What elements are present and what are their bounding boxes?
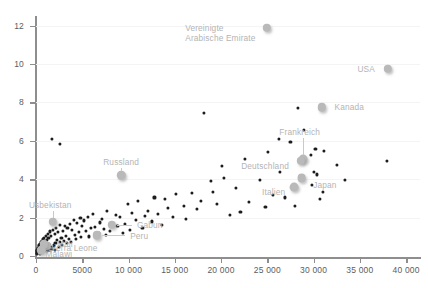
annotation-leader-line: [117, 225, 132, 226]
gridline-horizontal: [36, 141, 420, 142]
x-axis-tick: [314, 258, 315, 263]
y-axis-tick: [30, 64, 36, 65]
y-axis-tick-label: 10: [0, 59, 24, 69]
x-axis-tick-label: 40 000: [393, 265, 420, 275]
annotation-line: Arabische Emirate: [185, 33, 255, 43]
annotation-line: Peru: [130, 231, 148, 241]
y-axis-tick-label: 4: [0, 174, 24, 184]
country-annotation: Italien: [262, 187, 285, 197]
annotation-line: Russland: [103, 156, 139, 166]
annotation-line: USA: [357, 64, 375, 74]
x-axis-tick-label: 0: [34, 265, 39, 275]
country-annotation: Peru: [130, 231, 148, 241]
country-annotation: Russland: [103, 156, 139, 166]
x-axis-tick-label: 5000: [72, 265, 92, 275]
annotation-leader-line: [303, 138, 304, 155]
y-axis-tick: [30, 26, 36, 27]
y-axis-tick-label: 2: [0, 213, 24, 223]
y-axis-tick: [30, 102, 36, 103]
y-axis-tick-label: 12: [0, 21, 24, 31]
country-annotation: Gabun: [137, 220, 163, 230]
x-axis-tick-label: 15 000: [161, 265, 188, 275]
y-axis-tick-label: 6: [0, 136, 24, 146]
x-axis-tick: [221, 258, 222, 263]
x-axis-tick-label: 30 000: [300, 265, 327, 275]
y-axis-tick: [30, 218, 36, 219]
annotation-line: Malawi: [46, 249, 73, 259]
x-axis-tick-label: 20 000: [207, 265, 234, 275]
x-axis-tick: [82, 258, 83, 263]
highlighted-data-point[interactable]: [297, 174, 306, 183]
country-annotation: Kanada: [335, 102, 365, 112]
country-annotation: Deutschland: [241, 161, 289, 171]
annotation-line: Gabun: [137, 220, 163, 230]
highlighted-data-point[interactable]: [290, 182, 299, 191]
annotation-line: Japan: [313, 180, 336, 190]
x-axis-line: [35, 257, 421, 259]
x-axis-tick: [36, 258, 37, 263]
annotation-line: Kanada: [335, 102, 365, 112]
annotation-leader-line: [102, 235, 125, 236]
gridline-horizontal: [36, 218, 420, 219]
country-annotation: Frankreich: [279, 127, 320, 137]
annotation-leader-line: [121, 168, 122, 172]
annotation-leader-line: [53, 211, 54, 218]
y-axis-tick: [30, 179, 36, 180]
y-axis-tick: [30, 141, 36, 142]
x-axis-tick: [129, 258, 130, 263]
annotation-line: Frankreich: [279, 127, 320, 137]
annotation-line: Deutschland: [241, 161, 289, 171]
country-annotation: Japan: [313, 180, 336, 190]
annotation-line: Usbekistan: [29, 200, 72, 210]
x-axis-tick: [406, 258, 407, 263]
x-axis-tick: [360, 258, 361, 263]
x-axis-tick-label: 25 000: [254, 265, 281, 275]
x-axis-tick: [267, 258, 268, 263]
annotation-line: Vereinigte: [185, 22, 255, 32]
country-annotation: VereinigteArabische Emirate: [185, 22, 255, 42]
annotation-line: Italien: [262, 187, 285, 197]
country-annotation: USA: [357, 64, 375, 74]
scatter-chart: 0246810120500010 00015 00020 00025 00030…: [0, 0, 428, 288]
y-axis-tick-label: 0: [0, 251, 24, 261]
x-axis-tick: [175, 258, 176, 263]
gridline-horizontal: [36, 179, 420, 180]
plot-area: [36, 18, 420, 256]
country-annotation: Malawi: [46, 249, 73, 259]
x-axis-tick-label: 10 000: [115, 265, 142, 275]
country-annotation: Usbekistan: [29, 200, 72, 210]
x-axis-tick-label: 35 000: [346, 265, 373, 275]
y-axis-tick-label: 8: [0, 97, 24, 107]
